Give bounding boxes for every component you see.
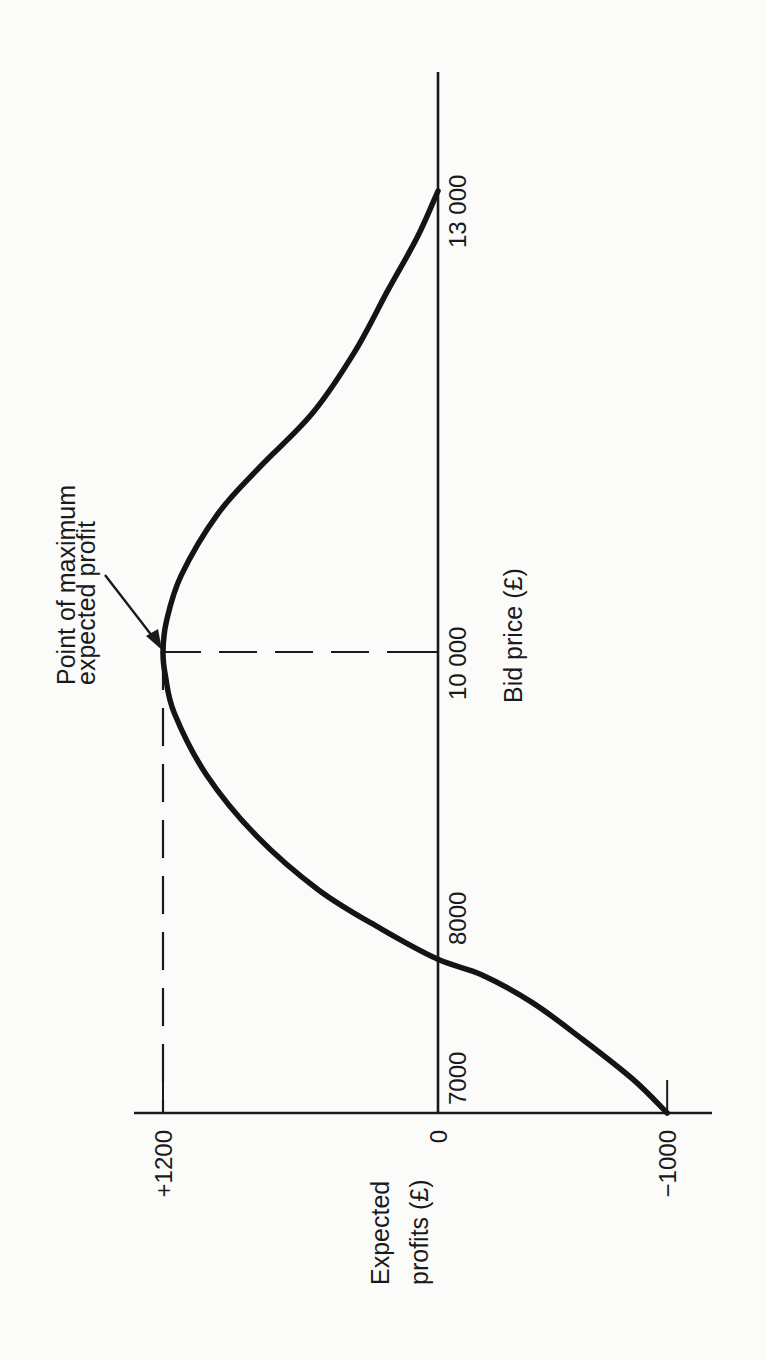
x-axis-label: Bid price (£) — [499, 568, 527, 703]
x-tick-label: 7000 — [444, 1052, 471, 1105]
x-tick-label: 10 000 — [444, 627, 471, 700]
x-tick-label: 13 000 — [444, 175, 471, 248]
y-tick-label: 0 — [425, 1130, 452, 1143]
y-axis-label-line1: Expected — [366, 1181, 394, 1285]
y-tick-label: +1200 — [150, 1130, 177, 1197]
y-tick-label: −1000 — [654, 1130, 681, 1197]
x-tick-label: 8000 — [444, 892, 471, 945]
reference-lines — [163, 652, 438, 1113]
y-axis-label-line2: profits (£) — [405, 1179, 433, 1285]
annotation-arrow — [105, 575, 156, 641]
max-profit-annotation: Point of maximum expected profit — [52, 485, 162, 685]
y-axis-label: Expected profits (£) — [366, 1179, 433, 1285]
expected-profit-chart: 7000800010 00013 000+12000−1000 Bid pric… — [0, 0, 767, 1360]
tick-labels: 7000800010 00013 000+12000−1000 — [150, 175, 681, 1198]
annotation-line2: expected profit — [72, 521, 100, 685]
